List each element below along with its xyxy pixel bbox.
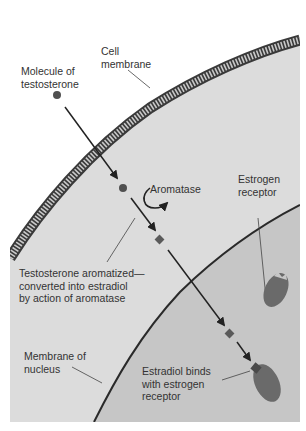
label-estrogen-receptor: Estrogen receptor [238,173,280,198]
label-nucleus-membrane: Membrane of nucleus [24,350,86,375]
testosterone-molecule-outside [53,91,61,99]
label-cell-membrane: Cell membrane [101,45,151,70]
label-aromatase: Aromatase [150,183,201,196]
testosterone-molecule-inside [119,184,127,192]
label-estradiol-binds: Estradiol binds with estrogen receptor [142,365,211,403]
label-aromatized: Testosterone aromatized— converted into … [19,267,144,305]
cell-membrane-pointer [128,70,150,88]
label-testosterone: Molecule of testosterone [21,65,79,90]
